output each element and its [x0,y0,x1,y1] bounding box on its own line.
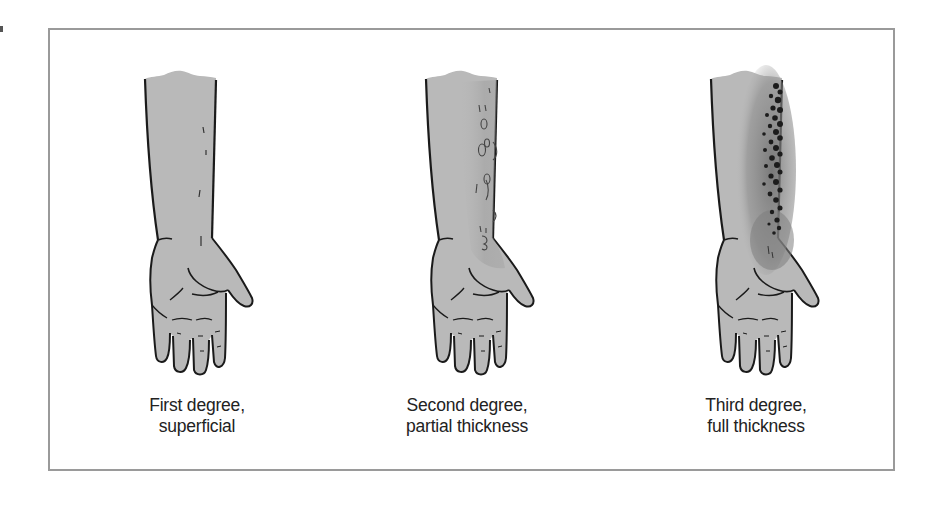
caption-third-degree: Third degree, full thickness [646,395,866,437]
caption-first-degree-line2: superficial [87,416,307,437]
caption-third-degree-line1: Third degree, [646,395,866,416]
caption-second-degree: Second degree, partial thickness [357,395,577,437]
caption-third-degree-line2: full thickness [646,416,866,437]
caption-second-degree-line1: Second degree, [357,395,577,416]
arm-first-degree [145,71,253,375]
caption-second-degree-line2: partial thickness [357,416,577,437]
caption-first-degree: First degree, superficial [87,395,307,437]
arm-third-degree [711,65,819,375]
caption-first-degree-line1: First degree, [87,395,307,416]
arm-second-degree [426,71,534,375]
